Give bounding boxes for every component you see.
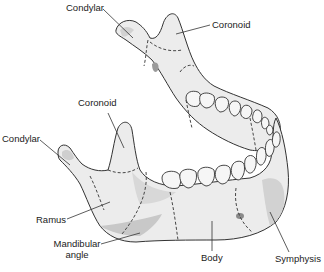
mandible-diagram: [0, 0, 324, 272]
mental-foramen: [236, 213, 244, 219]
label-condylar-upper: Condylar: [66, 2, 104, 13]
far-mandible-half: [116, 14, 281, 151]
label-mandibular-angle: Mandibular angle: [51, 238, 103, 260]
label-condylar-lower: Condylar: [2, 133, 40, 144]
label-symphysis: Symphysis: [275, 253, 321, 264]
label-body: Body: [201, 252, 223, 263]
far-ramus-and-body: [116, 14, 281, 151]
label-ramus: Ramus: [36, 214, 66, 225]
label-mandibular-angle-line2: angle: [51, 249, 103, 260]
label-coronoid-upper: Coronoid: [212, 19, 251, 30]
label-coronoid-lower: Coronoid: [78, 97, 117, 108]
far-notch-shading: [152, 62, 159, 72]
label-mandibular-angle-line1: Mandibular: [51, 238, 103, 249]
